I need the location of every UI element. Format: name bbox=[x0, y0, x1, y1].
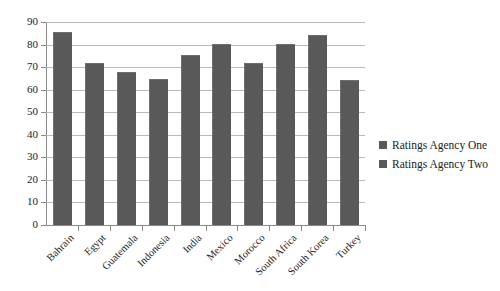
x-tick-mark bbox=[142, 226, 143, 231]
legend-item-1[interactable]: Ratings Agency Two bbox=[379, 154, 488, 173]
legend: Ratings Agency One Ratings Agency Two bbox=[379, 135, 488, 173]
x-tick-mark bbox=[365, 226, 366, 231]
x-tick-mark bbox=[269, 226, 270, 231]
legend-item-0[interactable]: Ratings Agency One bbox=[379, 135, 488, 154]
legend-label: Ratings Agency One bbox=[392, 139, 487, 151]
x-axis-label: Turkey bbox=[334, 232, 363, 261]
legend-swatch-icon bbox=[379, 141, 387, 149]
y-tick-label: 20 bbox=[27, 174, 38, 185]
bar[interactable] bbox=[308, 35, 327, 225]
bar[interactable] bbox=[276, 44, 295, 225]
x-tick-mark bbox=[206, 226, 207, 231]
x-axis-label: Mexico bbox=[205, 232, 235, 262]
bar[interactable] bbox=[117, 72, 136, 225]
bar[interactable] bbox=[181, 55, 200, 225]
plot-area bbox=[46, 22, 365, 225]
bar[interactable] bbox=[340, 80, 359, 225]
y-tick-label: 90 bbox=[27, 16, 38, 27]
legend-label: Ratings Agency Two bbox=[392, 158, 488, 170]
x-tick-mark bbox=[237, 226, 238, 231]
y-tick-label: 70 bbox=[27, 61, 38, 72]
bar[interactable] bbox=[149, 79, 168, 225]
x-tick-mark bbox=[301, 226, 302, 231]
x-axis-label: India bbox=[180, 232, 203, 255]
y-tick-label: 80 bbox=[27, 39, 38, 50]
x-tick-mark bbox=[333, 226, 334, 231]
bar-chart: 0102030405060708090 BahrainEgyptGuatemal… bbox=[0, 0, 500, 291]
y-tick-label: 60 bbox=[27, 84, 38, 95]
x-tick-mark bbox=[110, 226, 111, 231]
bar[interactable] bbox=[53, 32, 72, 225]
y-tick-label: 50 bbox=[27, 106, 38, 117]
bar[interactable] bbox=[85, 63, 104, 225]
x-axis-label: Indonesia bbox=[135, 232, 172, 269]
y-tick-label: 10 bbox=[27, 196, 38, 207]
legend-swatch-icon bbox=[379, 160, 387, 168]
y-tick-label: 40 bbox=[27, 129, 38, 140]
y-tick-label: 0 bbox=[33, 219, 39, 230]
y-tick-label: 30 bbox=[27, 151, 38, 162]
x-axis-label: Bahrain bbox=[44, 232, 75, 263]
bar[interactable] bbox=[244, 63, 263, 225]
y-tick-mark bbox=[41, 225, 46, 226]
bar[interactable] bbox=[212, 44, 231, 225]
x-axis-label: Egypt bbox=[82, 232, 108, 258]
x-tick-mark bbox=[174, 226, 175, 231]
gridline bbox=[46, 22, 365, 23]
x-tick-mark bbox=[78, 226, 79, 231]
